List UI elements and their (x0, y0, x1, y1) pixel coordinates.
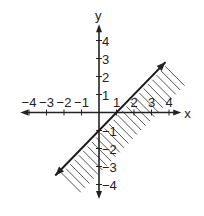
coordinate-graph: x y −4−3−2−112344321−1−2−3−4 (0, 0, 204, 216)
hatch-line (62, 173, 81, 192)
y-axis-arrow-up (96, 24, 102, 32)
y-tick-label: −2 (102, 142, 117, 157)
hatch-line (161, 71, 180, 90)
x-tick-label: 1 (113, 95, 120, 110)
hatch-line (157, 75, 176, 94)
hatch-line (122, 111, 141, 130)
x-axis-label: x (184, 106, 191, 121)
y-tick-label: −4 (102, 178, 117, 193)
x-tick-label: −3 (39, 95, 54, 110)
hatch-line (165, 66, 184, 85)
x-axis-arrow-right (173, 110, 181, 116)
y-tick-label: 1 (102, 88, 109, 103)
x-tick-label: 4 (165, 95, 172, 110)
x-tick-label: −4 (22, 95, 37, 110)
hatch-line (79, 155, 98, 174)
y-tick-label: 2 (102, 70, 109, 85)
y-tick-label: 3 (102, 52, 109, 67)
x-tick-label: 3 (148, 95, 155, 110)
hatch-line (70, 164, 89, 183)
hatch-line (66, 169, 85, 188)
boundary-line (55, 62, 165, 175)
shaded-region (62, 66, 185, 192)
y-tick-label: 4 (102, 34, 109, 49)
hatch-line (118, 115, 137, 134)
y-axis-label: y (95, 8, 102, 23)
hatch-line (75, 160, 94, 179)
boundary-line-group (55, 62, 165, 175)
x-tick-label: −1 (74, 95, 89, 110)
x-tick-label: −2 (57, 95, 72, 110)
x-axis-arrow-left (20, 110, 28, 116)
y-tick-label: −3 (102, 160, 117, 175)
